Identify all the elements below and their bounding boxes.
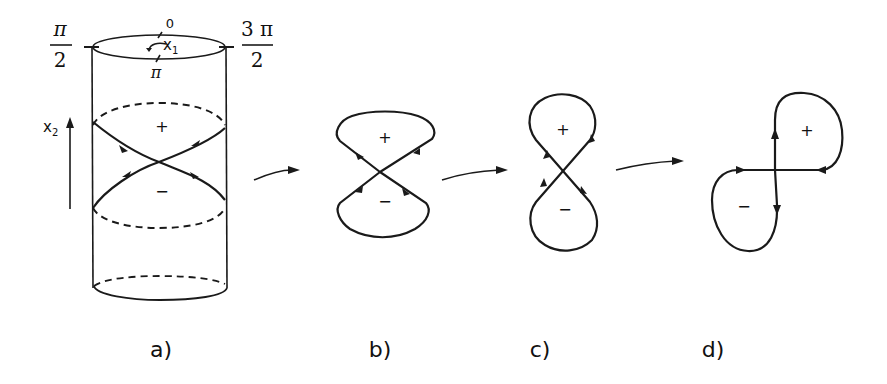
angle-3pi-over-2-num: 3 π — [241, 17, 273, 41]
panel-c-curve — [530, 94, 598, 250]
arrow-right-icon — [672, 157, 684, 165]
panel-b-caption: b) — [369, 337, 392, 362]
transition-arrow-a-b — [254, 166, 300, 180]
angle-pi-label: π — [150, 63, 162, 82]
lower-dashed-ellipse — [93, 208, 225, 228]
panel-c-minus: − — [558, 200, 571, 219]
angle-3pi-over-2-den: 2 — [251, 48, 264, 72]
angle-pi-over-2-num: π — [52, 17, 67, 41]
axis-x1-label: x1 — [163, 36, 178, 56]
angle-zero-label: 0 — [166, 16, 174, 31]
arrow-up-icon — [66, 117, 74, 128]
arrow-right-icon — [496, 166, 508, 174]
cylinder-left-wall — [92, 47, 93, 288]
arrow-right-icon — [288, 166, 300, 174]
axis-x2-label: x2 — [43, 118, 58, 138]
transition-arrow-b-c — [442, 166, 508, 180]
panel-b-minus: − — [378, 192, 391, 211]
cylinder-right-wall — [226, 47, 227, 288]
panel-a-caption: a) — [150, 337, 172, 362]
angle-pi-over-2-den: 2 — [54, 48, 67, 72]
x2-axis-arrow — [66, 117, 74, 209]
panel-d-minus: − — [737, 197, 750, 216]
panel-d-caption: d) — [702, 337, 725, 362]
panel-a-minus: − — [155, 182, 168, 201]
panel-b-arrowheads — [355, 148, 420, 196]
panel-a-plus: + — [155, 117, 168, 136]
transition-arrow-c-d — [616, 157, 684, 170]
figure-canvas: π 2 3 π 2 0 π x1 x2 + − a) + − b) — [0, 0, 887, 384]
bottom-front-solid — [94, 286, 227, 300]
panel-c-plus: + — [556, 120, 569, 139]
panel-d-plus: + — [800, 121, 813, 140]
panel-b-plus: + — [378, 128, 391, 147]
panel-c-caption: c) — [530, 337, 551, 362]
bottom-back-dashed — [94, 276, 225, 286]
